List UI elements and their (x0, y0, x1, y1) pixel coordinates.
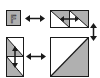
large-square-tile (50, 37, 89, 77)
horizontal-pair-tile (50, 10, 89, 28)
arrow-top-icon (25, 14, 45, 23)
letter-f: F (10, 13, 16, 26)
arrow-bottom-icon (26, 52, 46, 61)
letter-tile: F (6, 10, 21, 26)
vertical-pair-tile (6, 37, 24, 77)
arrow-right-icon (89, 23, 98, 41)
